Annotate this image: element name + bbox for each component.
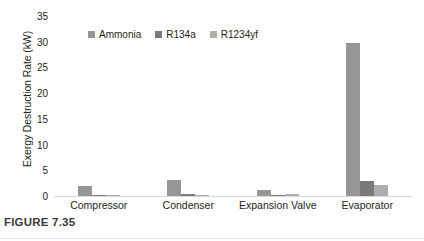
legend-label: R134a [166, 29, 195, 40]
bar[interactable] [78, 186, 92, 196]
x-axis-category-labels: CompressorCondenserExpansion ValveEvapor… [54, 199, 412, 211]
bar[interactable] [167, 180, 181, 196]
legend-label: R1234yf [221, 29, 258, 40]
figure-container: Exergy Destruction Rate (kW) 05101520253… [0, 0, 424, 241]
y-axis-tick-25: 25 [24, 62, 48, 73]
y-axis-tick-10: 10 [24, 139, 48, 150]
y-axis-tick-30: 30 [24, 36, 48, 47]
legend-label: Ammonia [99, 29, 141, 40]
legend-item[interactable]: Ammonia [88, 29, 141, 40]
chart-legend: AmmoniaR134aR1234yf [88, 29, 258, 40]
y-axis-tick-0: 0 [24, 191, 48, 202]
legend-item[interactable]: R1234yf [210, 29, 258, 40]
y-axis-tick-20: 20 [24, 88, 48, 99]
legend-item[interactable]: R134a [155, 29, 195, 40]
bar[interactable] [374, 185, 388, 196]
caption-divider [0, 238, 424, 239]
category-label: Compressor [54, 199, 144, 211]
bar-group [144, 16, 234, 196]
bar-group [323, 16, 413, 196]
bar-chart: Exergy Destruction Rate (kW) 05101520253… [0, 0, 424, 212]
bar-groups [54, 16, 412, 196]
bar-group [54, 16, 144, 196]
y-axis-tick-5: 5 [24, 165, 48, 176]
legend-swatch-icon [210, 31, 217, 38]
y-axis-tick-35: 35 [24, 11, 48, 22]
figure-caption: FIGURE 7.35 [4, 216, 75, 228]
category-label: Condenser [144, 199, 234, 211]
y-axis-tick-15: 15 [24, 113, 48, 124]
category-axis-line [54, 196, 412, 197]
category-label: Expansion Valve [233, 199, 323, 211]
bar[interactable] [360, 181, 374, 196]
legend-swatch-icon [88, 31, 95, 38]
legend-swatch-icon [155, 31, 162, 38]
y-axis-tick-labels: 05101520253035 [24, 0, 48, 212]
bar-group [233, 16, 323, 196]
plot-area [54, 16, 412, 196]
bar[interactable] [346, 43, 360, 196]
category-label: Evaporator [323, 199, 413, 211]
